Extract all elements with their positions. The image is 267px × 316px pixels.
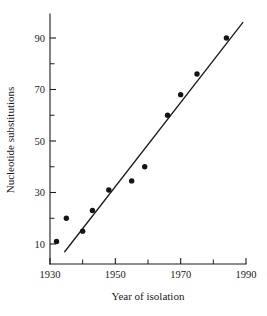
data-point <box>194 71 199 76</box>
y-tick-label: 30 <box>35 187 46 198</box>
y-tick-label: 10 <box>35 239 46 250</box>
data-point <box>90 208 95 213</box>
data-point <box>178 92 183 97</box>
y-tick-label: 90 <box>35 33 46 44</box>
data-point <box>64 216 69 221</box>
data-point <box>129 178 134 183</box>
chart-figure: 1030507090 1930195019701990 Year of isol… <box>0 0 267 316</box>
data-point <box>224 35 229 40</box>
data-point <box>142 164 147 169</box>
x-tick-label: 1970 <box>170 269 191 280</box>
data-point <box>165 113 170 118</box>
x-tick-label: 1990 <box>236 269 257 280</box>
scatter-plot: 1030507090 1930195019701990 Year of isol… <box>0 0 267 316</box>
data-point <box>80 228 85 233</box>
y-axis-title: Nucleotide substitutions <box>4 87 16 194</box>
y-tick-label: 70 <box>35 84 46 95</box>
data-point <box>54 239 59 244</box>
y-tick-label: 50 <box>35 136 46 147</box>
x-axis-title: Year of isolation <box>112 290 185 302</box>
x-tick-label: 1950 <box>105 269 126 280</box>
data-point <box>106 187 111 192</box>
x-tick-label: 1930 <box>40 269 61 280</box>
